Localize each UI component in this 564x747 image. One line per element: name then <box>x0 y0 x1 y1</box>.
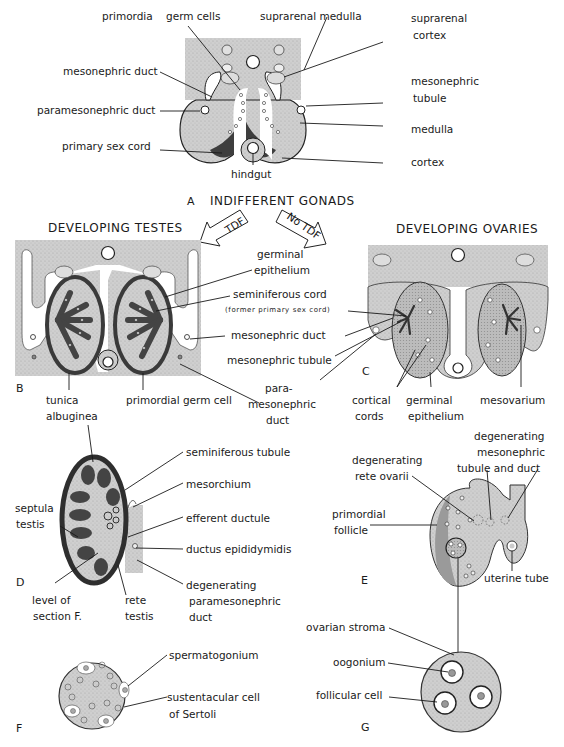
label-mesonephric-duct-a: mesonephric duct <box>63 65 158 77</box>
label-rete-testis-2: testis <box>125 610 154 622</box>
label-primordia: primordia <box>102 10 153 22</box>
label-degenerating-mesonephric-3: tubule and duct <box>457 462 540 474</box>
label-germinal-epithelium-c-2: epithelium <box>408 410 464 422</box>
label-degenerating-pmd-2: paramesonephric <box>189 595 281 607</box>
panel-letter-b: B <box>16 382 24 395</box>
label-degenerating-mesonephric: degenerating <box>474 430 544 442</box>
label-seminiferous-cord: seminiferous cord <box>233 288 327 300</box>
panel-f-seminiferous-tubule-section: F spermatogonium sustentacular cell of S… <box>16 649 260 735</box>
panel-d-testis-section: D seminiferous tubule mesorchium septula… <box>15 425 291 623</box>
panel-letter-f: F <box>16 722 22 735</box>
caption-developing-ovaries: DEVELOPING OVARIES <box>396 222 538 236</box>
label-mesorchium: mesorchium <box>186 478 251 490</box>
label-paramesonephric-duct-b-3: duct <box>266 414 289 426</box>
label-germinal-epithelium-c: germinal <box>406 394 452 406</box>
label-level-of-section-2: section F. <box>33 610 82 622</box>
label-mesonephric-duct-b: mesonephric duct <box>231 329 326 341</box>
label-septula-testis: septula <box>15 502 54 514</box>
hindgut-lumen <box>248 143 259 154</box>
label-paramesonephric-duct-b-2: mesonephric <box>248 398 316 410</box>
label-paramesonephric-duct-b: para- <box>265 382 293 394</box>
label-suprarenal-cortex: suprarenal <box>411 12 467 24</box>
label-uterine-tube: uterine tube <box>484 572 549 584</box>
label-rete-testis: rete <box>125 594 146 606</box>
label-oogonium: oogonium <box>333 656 385 668</box>
label-germinal-epithelium-b: germinal <box>257 248 303 260</box>
label-mesovarium: mesovarium <box>480 394 545 406</box>
label-seminiferous-tubule: seminiferous tubule <box>186 446 290 458</box>
label-hindgut: hindgut <box>231 168 271 180</box>
label-primordial-follicle: primordial <box>332 508 386 520</box>
aorta <box>247 56 260 69</box>
label-degenerating-pmd-3: duct <box>189 611 212 623</box>
label-mesonephric-tubule-a: mesonephric <box>411 75 479 87</box>
tdf-arrows: TDF No TDF <box>200 210 326 248</box>
caption-developing-testes: DEVELOPING TESTES <box>48 221 183 235</box>
label-degenerating-mesonephric-2: mesonephric <box>477 446 545 458</box>
label-germ-cells: germ cells <box>166 10 220 22</box>
label-germinal-epithelium-b-2: epithelium <box>254 264 310 276</box>
label-sertoli: sustentacular cell <box>167 691 260 703</box>
label-cortical-cords-2: cords <box>355 410 383 422</box>
panel-letter-g: G <box>361 721 370 734</box>
label-sertoli-2: of Sertoli <box>169 708 216 720</box>
label-follicular-cell: follicular cell <box>316 689 382 701</box>
caption-indifferent-gonads: INDIFFERENT GONADS <box>210 194 355 208</box>
panel-g-ovarian-cortex-section: G ovarian stroma oogonium follicular cel… <box>306 621 501 734</box>
label-mesonephric-tubule-b: mesonephric tubule <box>227 354 332 366</box>
label-tunica-albuginea: tunica <box>46 394 79 406</box>
panel-letter-e: E <box>361 574 368 587</box>
label-degenerating-rete-ovarii-2: rete ovarii <box>355 470 409 482</box>
label-primary-sex-cord: primary sex cord <box>62 140 151 152</box>
label-spermatogonium: spermatogonium <box>169 649 258 661</box>
panel-letter-d: D <box>16 576 24 589</box>
panel-b-developing-testes: DEVELOPING TESTES B ger <box>15 221 332 426</box>
label-mesonephric-tubule-a-2: tubule <box>413 92 446 104</box>
gonad-development-diagram: primordia germ cells suprarenal medulla … <box>0 0 564 747</box>
label-ovarian-stroma: ovarian stroma <box>306 621 386 633</box>
label-paramesonephric-duct-a: paramesonephric duct <box>37 104 155 116</box>
label-primordial-germ-cell: primordial germ cell <box>126 394 232 406</box>
panel-letter-a: A <box>187 195 195 208</box>
label-suprarenal-cortex-2: cortex <box>413 29 446 41</box>
label-former-primary-sex-cord: (former primary sex cord) <box>225 306 330 314</box>
label-cortex: cortex <box>411 156 444 168</box>
label-septula-testis-2: testis <box>16 518 45 530</box>
label-medulla: medulla <box>411 123 453 135</box>
label-cortical-cords: cortical <box>352 394 391 406</box>
panel-a-indifferent-gonads: primordia germ cells suprarenal medulla … <box>37 10 479 208</box>
label-tunica-albuginea-2: albuginea <box>46 410 98 422</box>
label-ductus-epididymidis: ductus epididymidis <box>186 543 291 555</box>
panel-letter-c: C <box>362 365 370 378</box>
label-primordial-follicle-2: follicle <box>334 524 368 536</box>
panel-c-developing-ovaries: DEVELOPING OVARIES C cortical cords ge <box>320 222 548 422</box>
label-suprarenal-medulla: suprarenal medulla <box>260 10 362 22</box>
label-degenerating-rete-ovarii: degenerating <box>352 454 422 466</box>
label-efferent-ductule: efferent ductule <box>186 512 270 524</box>
label-level-of-section: level of <box>32 594 71 606</box>
label-degenerating-pmd: degenerating <box>186 579 256 591</box>
